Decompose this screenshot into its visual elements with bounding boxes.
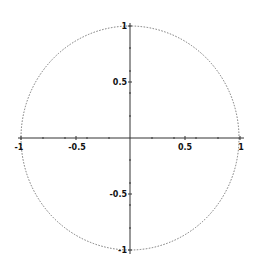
y-tick-label: -0.5 xyxy=(110,190,128,199)
x-tick-label: 1 xyxy=(238,143,244,152)
x-tick-label: -0.5 xyxy=(68,143,86,152)
y-tick-label: 1 xyxy=(121,22,127,31)
y-tick-label: -1 xyxy=(118,246,127,255)
y-tick-label: 0.5 xyxy=(113,78,128,87)
x-tick-label: 0.5 xyxy=(178,143,193,152)
plot-area: -1 -0.5 0.5 1 1 0.5 -0.5 -1 xyxy=(0,0,258,264)
x-tick-label: -1 xyxy=(15,143,24,152)
